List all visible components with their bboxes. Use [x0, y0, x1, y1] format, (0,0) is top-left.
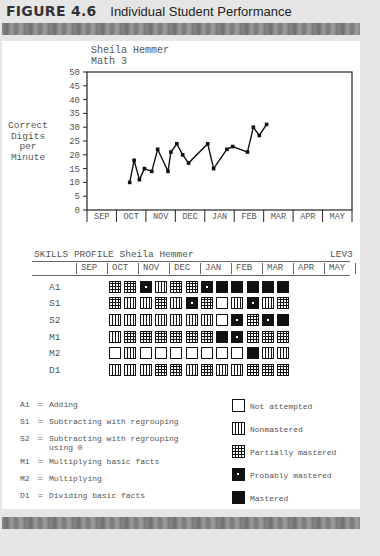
skill-description: Multiplying basic facts [49, 457, 159, 466]
skill-code: M1 [20, 457, 38, 466]
skill-mark-mastered [277, 281, 289, 293]
x-month-label: DEC [182, 212, 197, 222]
y-tick-label: 25 [69, 137, 80, 147]
data-point [143, 167, 147, 171]
skill-mark-partially-mastered [277, 331, 289, 343]
skills-month-dec: DEC [169, 263, 200, 274]
skill-mark-not-attempted [216, 297, 228, 309]
skill-mark-nonmastered [155, 314, 167, 326]
skill-mark-mastered [216, 331, 228, 343]
skill-code: S1 [20, 417, 38, 426]
skill-key-item: S2=Subtracting with regrouping using 0 [20, 434, 52, 443]
skill-mark-probably-mastered [231, 314, 243, 326]
skill-mark-mastered [277, 314, 289, 326]
skill-mark-nonmastered [109, 364, 121, 376]
skill-code: D1 [20, 491, 38, 500]
skill-mark-partially-mastered [247, 314, 259, 326]
skills-profile-month-header: SEPOCTNOVDECJANFEBMARAPRMAY [32, 261, 350, 276]
x-month-label: APR [300, 212, 315, 222]
skill-code: M2 [20, 474, 38, 483]
skill-mark-not-attempted [140, 347, 152, 359]
x-month-label: SEP [94, 212, 109, 222]
skill-mark-mastered [247, 347, 259, 359]
skill-mark-partially-mastered [109, 281, 121, 293]
skill-mark-nonmastered [216, 364, 228, 376]
skills-month-apr: APR [293, 263, 324, 274]
skills-month-feb: FEB [231, 263, 262, 274]
y-tick-label: 0 [75, 206, 80, 216]
skill-mark-partially-mastered [109, 297, 121, 309]
data-point [175, 142, 179, 146]
skill-row-label: S2 [49, 315, 60, 326]
skill-mark-partially-mastered [277, 297, 289, 309]
y-tick-label: 30 [69, 123, 80, 133]
mastered-icon [232, 491, 245, 504]
skill-description: Multiplying [49, 474, 102, 483]
skill-row-label: M2 [49, 348, 60, 359]
data-point [187, 161, 191, 165]
skill-mark-probably-mastered [231, 331, 243, 343]
skill-mark-not-attempted [155, 347, 167, 359]
skill-description: Dividing basic facts [49, 491, 145, 500]
skill-mark-not-attempted [216, 347, 228, 359]
skill-mark-partially-mastered [124, 331, 136, 343]
data-point [265, 123, 269, 127]
data-point [128, 181, 132, 185]
skill-mark-partially-mastered [170, 331, 182, 343]
not-attempted-icon [232, 399, 245, 412]
skill-row-label: S1 [49, 298, 60, 309]
skill-mark-nonmastered [231, 364, 243, 376]
plot-frame [87, 72, 352, 210]
y-tick-label: 50 [69, 68, 80, 78]
skills-month-sep: SEP [76, 263, 107, 274]
skill-key-item: D1=Dividing basic facts [20, 491, 52, 500]
skill-mark-partially-mastered [201, 331, 213, 343]
data-point [225, 147, 229, 151]
skill-mark-partially-mastered [201, 364, 213, 376]
skill-mark-partially-mastered [155, 297, 167, 309]
skill-mark-partially-mastered [262, 331, 274, 343]
y-tick-label: 35 [69, 109, 80, 119]
skill-mark-nonmastered [124, 347, 136, 359]
skill-row-label: M1 [49, 332, 60, 343]
y-tick-label: 45 [69, 82, 80, 92]
skill-key-item: M2=Multiplying [20, 474, 52, 483]
data-point [150, 170, 154, 174]
skill-mark-partially-mastered [186, 281, 198, 293]
y-tick-label: 40 [69, 96, 80, 106]
x-month-label: NOV [153, 212, 169, 222]
skill-mark-nonmastered [140, 297, 152, 309]
x-month-label: OCT [124, 212, 139, 222]
skill-mark-partially-mastered [201, 297, 213, 309]
skills-month-mar: MAR [262, 263, 293, 274]
skill-mark-partially-mastered [155, 331, 167, 343]
skill-description: Subtracting with regrouping using 0 [49, 434, 179, 452]
skill-mark-partially-mastered [186, 331, 198, 343]
data-point [231, 145, 235, 149]
skill-mark-probably-mastered [186, 297, 198, 309]
skill-mark-probably-mastered [262, 314, 274, 326]
mark-legend-label: Mastered [250, 494, 288, 503]
skill-description: Adding [49, 400, 78, 409]
skills-profile-level: LEV3 [330, 249, 353, 260]
skills-month-nov: NOV [138, 263, 169, 274]
skill-mark-nonmastered [155, 281, 167, 293]
skill-mark-not-attempted [201, 347, 213, 359]
x-month-label: FEB [241, 212, 256, 222]
skill-mark-nonmastered [124, 314, 136, 326]
skill-row-label: A1 [49, 282, 60, 293]
y-tick-label: 5 [75, 192, 80, 202]
skill-mark-nonmastered [170, 297, 182, 309]
skill-mark-not-attempted [170, 347, 182, 359]
mark-legend-label: Partially mastered [250, 448, 336, 457]
skill-mark-nonmastered [109, 314, 121, 326]
skill-key-item: M1=Multiplying basic facts [20, 457, 52, 466]
skill-mark-partially-mastered [247, 331, 259, 343]
skill-row-label: D1 [49, 365, 60, 376]
y-tick-label: 15 [69, 165, 80, 175]
x-month-label: MAY [330, 212, 345, 222]
skill-mark-partially-mastered [170, 364, 182, 376]
skill-mark-partially-mastered [155, 364, 167, 376]
skill-mark-mastered [216, 281, 228, 293]
skill-mark-mastered [247, 281, 259, 293]
